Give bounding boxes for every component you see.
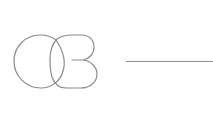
- horizontal-divider: [126, 61, 213, 63]
- left-loop-icon: [14, 35, 64, 88]
- right-loop-icon: [50, 35, 97, 88]
- canvas: [0, 0, 213, 121]
